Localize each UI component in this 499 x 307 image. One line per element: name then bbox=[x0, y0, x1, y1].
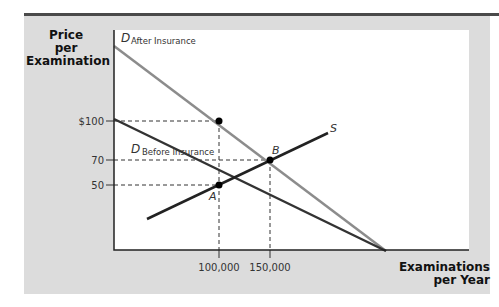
d-after-sublabel: After Insurance bbox=[131, 36, 196, 46]
d-before-label: D bbox=[131, 142, 140, 156]
y-tick-50: 50 bbox=[91, 180, 104, 191]
x-tick-100000: 100,000 bbox=[198, 262, 239, 273]
point-100 bbox=[216, 118, 223, 125]
y-tick-70: 70 bbox=[91, 155, 104, 166]
plot-area bbox=[114, 30, 469, 250]
d-before-sublabel: Before Insurance bbox=[142, 147, 214, 157]
chart-svg: D After Insurance D Before Insurance S A… bbox=[0, 0, 499, 307]
x-tick-150000: 150,000 bbox=[249, 262, 290, 273]
s-label: S bbox=[330, 122, 337, 135]
d-after-label: D bbox=[121, 31, 130, 45]
b-label: B bbox=[272, 144, 280, 157]
y-tick-100: $100 bbox=[79, 116, 104, 127]
a-label: A bbox=[208, 190, 217, 203]
point-a bbox=[216, 182, 223, 189]
point-b bbox=[267, 157, 274, 164]
